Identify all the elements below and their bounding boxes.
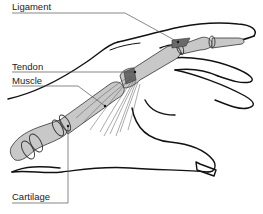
label-tendon: Tendon bbox=[12, 62, 43, 72]
label-ligament: Ligament bbox=[12, 2, 51, 12]
hand-anatomy-diagram bbox=[0, 0, 263, 214]
label-cartilage: Cartilage bbox=[12, 192, 50, 202]
bones bbox=[10, 37, 244, 160]
label-muscle: Muscle bbox=[12, 76, 42, 86]
